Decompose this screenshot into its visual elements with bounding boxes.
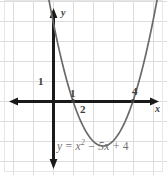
parabola-figure: 1 1 2 4 y x y = x2 − 5x + 4	[0, 0, 167, 175]
equation-equals-sign: =	[66, 140, 73, 152]
x-axis-tick-two-label: 2	[80, 104, 86, 115]
x-axis-name-label: x	[155, 104, 160, 114]
x-intercept-one-label: 1	[70, 88, 76, 99]
equation-exponent: 2	[81, 138, 85, 147]
equation-constant-term: 4	[123, 140, 129, 152]
equation-minus-sign: −	[88, 140, 95, 152]
equation-plus-sign: +	[113, 140, 120, 152]
equation-five-x-term: 5x	[98, 140, 109, 152]
y-axis-unit-tick-label: 1	[38, 76, 44, 87]
y-axis-name-label: y	[61, 8, 65, 18]
x-intercept-four-label: 4	[132, 86, 138, 97]
equation-y-term: y	[57, 140, 62, 152]
equation-caption: y = x2 − 5x + 4	[57, 139, 129, 152]
